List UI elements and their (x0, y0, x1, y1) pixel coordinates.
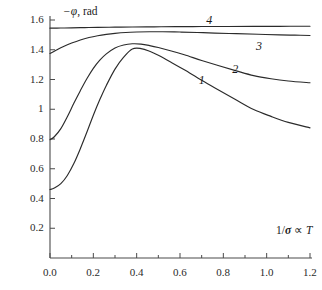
x-tick-label: 1.0 (260, 267, 274, 278)
curve-label-3: 3 (256, 40, 262, 52)
y-tick-label: 0.6 (30, 163, 44, 174)
x-tick-label: 0.6 (173, 267, 187, 278)
curve-label-4: 4 (206, 14, 212, 26)
x-tick-label: 1.2 (303, 267, 317, 278)
x-tick-label: 0.8 (216, 267, 230, 278)
chart-plot-area (0, 0, 322, 290)
y-tick-label: 1.2 (30, 74, 44, 85)
y-tick-label: 1 (38, 103, 44, 114)
x-tick-label: 0.2 (86, 267, 100, 278)
curve-label-2: 2 (232, 63, 238, 75)
curve-4 (50, 26, 310, 28)
y-axis-label: −φ, rad (63, 6, 98, 18)
x-tick-label: 0.0 (43, 267, 57, 278)
curve-label-1: 1 (199, 74, 205, 86)
curve-3 (50, 32, 310, 54)
curve-1 (50, 48, 310, 189)
y-tick-label: 1.4 (30, 44, 44, 55)
data-curves (50, 26, 310, 189)
y-tick-label: 0.8 (30, 133, 44, 144)
chart-figure: −φ, rad 1/σ ∝ T 0.00.20.40.60.81.01.2 0.… (0, 0, 322, 290)
y-tick-label: 1.6 (30, 14, 44, 25)
x-axis-label: 1/σ ∝ T (276, 225, 312, 237)
y-tick-label: 0.2 (30, 222, 44, 233)
axes (50, 16, 312, 258)
x-tick-label: 0.4 (130, 267, 144, 278)
y-tick-label: 0.4 (30, 193, 44, 204)
